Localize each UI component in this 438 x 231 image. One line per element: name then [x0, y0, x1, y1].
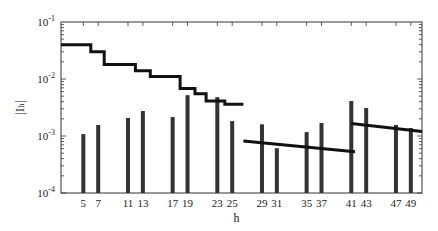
- x-tick-label: 23: [212, 197, 224, 209]
- bar-h37: [320, 123, 324, 193]
- x-tick-label: 17: [167, 197, 179, 209]
- bar-h43: [364, 108, 368, 193]
- bar-h49: [409, 128, 413, 193]
- bar-h13: [141, 111, 145, 193]
- bar-h41: [349, 101, 353, 193]
- limit-line-3: [351, 124, 422, 132]
- x-tick-label: 37: [316, 197, 328, 209]
- y-tick-label: 10-2: [37, 71, 55, 85]
- x-tick-label: 41: [346, 197, 357, 209]
- bar-h35: [305, 132, 309, 193]
- bar-h7: [96, 125, 100, 193]
- x-tick-label: 25: [227, 197, 239, 209]
- x-tick-label: 31: [271, 197, 282, 209]
- x-tick-label: 7: [95, 197, 101, 209]
- bar-h5: [81, 134, 85, 193]
- y-tick-label: 10-1: [37, 14, 55, 28]
- bar-h23: [215, 97, 219, 193]
- bar-h31: [275, 148, 279, 193]
- bar-h17: [171, 117, 175, 193]
- x-tick-label: 47: [390, 197, 402, 209]
- x-tick-label: 49: [405, 197, 417, 209]
- y-tick-label: 10-4: [37, 185, 55, 199]
- y-axis-title: |Iₕ|: [13, 101, 27, 115]
- bar-h47: [394, 125, 398, 193]
- harmonic-spectrum-chart: 10-410-310-210-1571113171923252931353741…: [0, 0, 438, 231]
- bar-h11: [126, 118, 130, 193]
- limit-line-1: [61, 45, 243, 105]
- x-tick-label: 5: [81, 197, 87, 209]
- y-tick-label: 10-3: [37, 128, 55, 142]
- x-tick-label: 19: [182, 197, 194, 209]
- bar-h19: [186, 95, 190, 193]
- x-tick-label: 11: [123, 197, 134, 209]
- x-tick-label: 43: [361, 197, 373, 209]
- x-axis-title: h: [234, 211, 240, 225]
- bar-h25: [230, 121, 234, 193]
- x-tick-label: 13: [137, 197, 149, 209]
- bar-h29: [260, 124, 264, 193]
- x-tick-label: 35: [301, 197, 313, 209]
- x-tick-label: 29: [256, 197, 268, 209]
